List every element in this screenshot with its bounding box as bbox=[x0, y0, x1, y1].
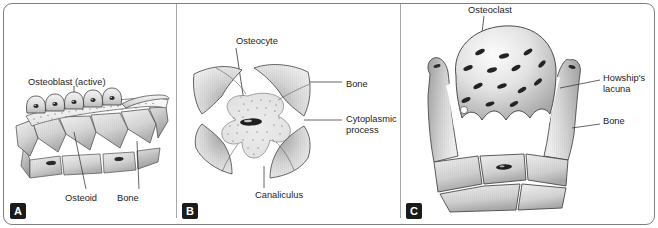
panel-letter-c: C bbox=[406, 203, 422, 219]
panel-a: Osteoblast (active) Osteoid Bone bbox=[0, 0, 176, 228]
label-canaliculus: Canaliculus bbox=[255, 190, 303, 201]
label-cytoplasmic-process: Cytoplasmic process bbox=[346, 114, 400, 135]
panel-c: Osteoclast Howship's lacuna Bone bbox=[400, 0, 658, 228]
panel-b-illustration bbox=[192, 48, 342, 188]
label-bone-b: Bone bbox=[346, 79, 368, 90]
label-osteoclast: Osteoclast bbox=[468, 5, 512, 16]
panel-b: Osteocyte Bone Cytoplasmic process Canal… bbox=[176, 0, 400, 228]
bone-cells-figure: Osteoblast (active) Osteoid Bone bbox=[0, 0, 658, 228]
panel-letter-b: B bbox=[182, 203, 198, 219]
panel-letter-a: A bbox=[10, 203, 26, 219]
panel-c-illustration bbox=[420, 16, 600, 216]
label-bone-c: Bone bbox=[603, 116, 625, 127]
label-howships-lacuna: Howship's lacuna bbox=[603, 73, 657, 94]
panel-a-illustration bbox=[8, 86, 173, 196]
label-osteocyte: Osteocyte bbox=[236, 36, 278, 47]
